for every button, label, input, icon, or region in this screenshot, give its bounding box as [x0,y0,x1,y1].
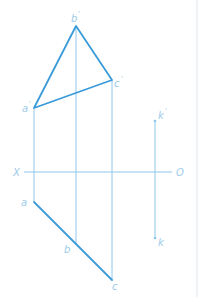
point-k-prime [154,120,157,123]
label-c: c [112,281,118,292]
label-k-prime-mark: ' [165,107,167,115]
label-k-prime: k [158,110,165,121]
label-k: k [158,237,165,248]
label-c-prime: c [114,78,120,89]
top-view-line [34,202,112,280]
axis-label-x: X [12,167,21,178]
projection-diagram: X O b ' c ' a ' k ' a b c k [0,0,202,297]
point-k [154,237,157,240]
front-view-triangle [34,26,112,108]
label-a: a [21,197,27,208]
label-a-prime-mark: ' [29,100,31,108]
label-c-prime-mark: ' [121,75,123,83]
label-b: b [64,244,70,255]
label-b-prime-mark: ' [78,10,80,18]
label-a-prime: a [22,103,28,114]
axis-label-o: O [176,167,184,178]
label-b-prime: b [71,13,77,24]
